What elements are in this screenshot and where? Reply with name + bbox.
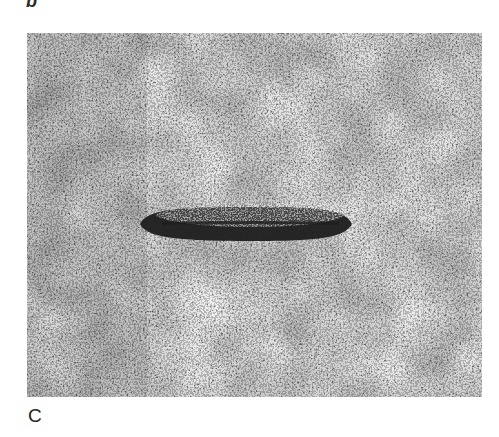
micrograph-panel [27,33,482,397]
figure-top-label: b [26,0,37,12]
panel-label: C [28,405,42,427]
micrograph-image [27,33,482,397]
